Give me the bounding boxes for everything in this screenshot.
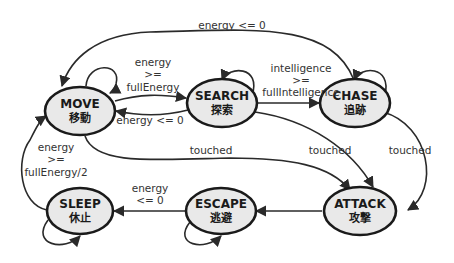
label-move-to-search-1: energy: [135, 56, 172, 68]
label-search-to-chase-1: intelligence: [271, 62, 332, 74]
label-move-to-search-2: >=: [144, 68, 162, 80]
state-sleep-sub: 休止: [68, 211, 91, 225]
state-move-sub: 移動: [69, 111, 91, 125]
edge-sleep-to-move: [22, 116, 47, 210]
state-escape: ESCAPE 逃避: [186, 188, 256, 234]
label-move-to-attack: touched: [190, 144, 233, 156]
label-search-to-chase-3: fullIntelligence: [262, 86, 339, 98]
state-escape-label: ESCAPE: [195, 197, 247, 211]
edge-chase-to-move: [62, 30, 354, 86]
state-diagram: MOVE 移動 SEARCH 探索 CHASE 追跡 SLEEP 休止 ESCA…: [0, 0, 454, 263]
state-sleep-label: SLEEP: [59, 197, 101, 211]
label-sleep-to-move-3: fullEnergy/2: [24, 166, 87, 178]
label-chase-to-move: energy <= 0: [198, 19, 266, 31]
edge-chase-to-attack: [383, 112, 427, 210]
state-move: MOVE 移動: [45, 87, 115, 135]
state-sleep: SLEEP 休止: [47, 188, 113, 234]
label-sleep-to-move-2: >=: [47, 153, 65, 165]
label-search-to-chase-2: >=: [292, 74, 310, 86]
edge-move-to-search: [115, 95, 186, 101]
state-move-label: MOVE: [60, 97, 99, 111]
state-attack-sub: 攻撃: [349, 211, 371, 225]
label-sleep-to-move-1: energy: [38, 141, 75, 153]
state-search-sub: 探索: [211, 103, 233, 117]
label-search-to-attack: touched: [309, 144, 352, 156]
label-escape-to-sleep-1: energy: [132, 182, 169, 194]
state-escape-sub: 逃避: [210, 211, 233, 225]
state-attack-label: ATTACK: [334, 197, 386, 211]
state-search-label: SEARCH: [195, 89, 249, 103]
label-search-to-move: energy <= 0: [116, 114, 184, 126]
label-escape-to-sleep-2: <= 0: [136, 194, 164, 206]
label-move-to-search-3: fullEnergy: [127, 81, 180, 93]
state-attack: ATTACK 攻撃: [324, 187, 396, 235]
state-search: SEARCH 探索: [187, 79, 257, 127]
state-chase-sub: 追跡: [344, 103, 366, 117]
label-chase-to-attack: touched: [389, 144, 432, 156]
